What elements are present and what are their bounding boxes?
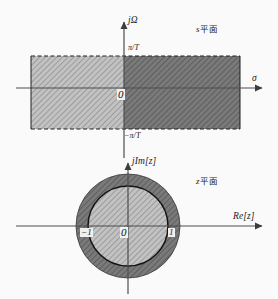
s-plane-imaginary-axis-label: jΩ — [128, 16, 138, 26]
s-plane-tick-pi-over-t: π/T — [128, 44, 139, 52]
figure-container: jΩ σ s平面 π/T −π/T 0 jIm[z] Re[z] z平面 −1 … — [0, 0, 278, 299]
s-plane-real-axis-label: σ — [252, 74, 257, 84]
z-plane-imaginary-axis-label: jIm[z] — [132, 157, 156, 167]
z-plane-real-axis-label: Re[z] — [233, 212, 255, 222]
z-plane-origin-label: 0 — [120, 227, 128, 238]
s-plane-title: s平面 — [196, 25, 218, 34]
z-plane-tick-negative-one: −1 — [80, 228, 93, 237]
z-plane-panel — [0, 0, 278, 299]
z-plane-title-cjk: 平面 — [200, 176, 218, 186]
s-plane-origin-label: 0 — [117, 89, 125, 100]
z-plane-tick-positive-one: 1 — [168, 228, 175, 237]
diagram-canvas — [0, 0, 278, 299]
z-plane-title: z平面 — [196, 177, 218, 186]
s-plane-tick-negative-pi-over-t: −π/T — [124, 132, 140, 140]
s-plane-title-cjk: 平面 — [200, 24, 218, 34]
